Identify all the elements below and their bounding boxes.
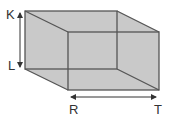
- cuboid-diagram: [0, 0, 171, 120]
- label-k: K: [6, 8, 15, 21]
- label-r: R: [69, 103, 78, 116]
- label-l: L: [8, 59, 15, 72]
- label-t: T: [154, 103, 162, 116]
